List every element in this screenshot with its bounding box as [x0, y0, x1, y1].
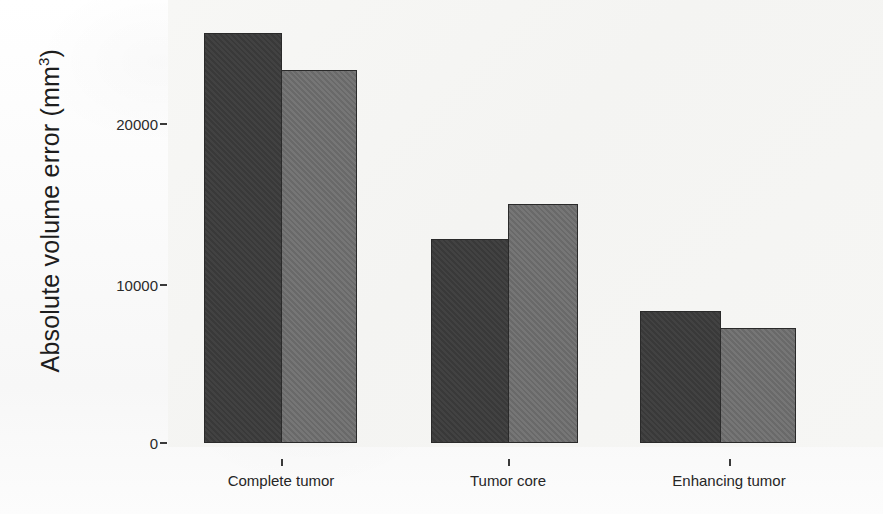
y-tick-mark-1	[160, 284, 167, 286]
x-tick-label-complete-tumor: Complete tumor	[228, 472, 335, 489]
x-tick-label-enhancing-tumor: Enhancing tumor	[672, 472, 785, 489]
y-tick-2: 20000	[0, 124, 158, 141]
bar-tumor-core-light	[508, 204, 578, 443]
y-tick-label-1: 10000	[116, 277, 158, 294]
bar-complete-tumor-dark	[204, 33, 282, 443]
y-tick-1: 10000	[0, 285, 158, 302]
bar-enhancing-tumor-dark	[640, 311, 721, 443]
x-tick-mark-2	[729, 459, 731, 466]
y-tick-mark-0	[160, 442, 167, 444]
x-tick-label-tumor-core: Tumor core	[470, 472, 546, 489]
x-tick-mark-1	[508, 459, 510, 466]
y-tick-label-0: 0	[150, 435, 158, 452]
y-axis-title-superscript: 3	[35, 57, 52, 66]
bar-tumor-core-dark	[431, 239, 509, 443]
bar-enhancing-tumor-light	[720, 328, 796, 443]
y-axis-title-close-paren: )	[36, 49, 64, 58]
bar-complete-tumor-light	[281, 70, 357, 443]
bar-chart-figure: Absolute volume error (mm3) 0 10000 2000…	[0, 0, 883, 514]
y-tick-mark-2	[160, 123, 167, 125]
x-tick-mark-0	[281, 459, 283, 466]
y-tick-0: 0	[0, 443, 158, 460]
y-axis-title: Absolute volume error (mm3)	[35, 1, 64, 421]
y-tick-label-2: 20000	[116, 116, 158, 133]
y-axis-title-text: Absolute volume error (mm	[36, 66, 64, 372]
